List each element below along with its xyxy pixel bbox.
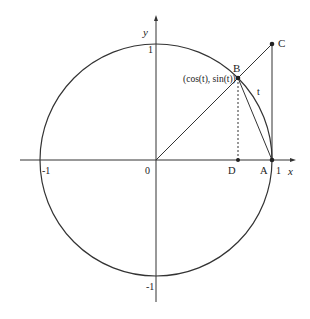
y-axis-arrow-icon	[154, 15, 158, 21]
point-a	[270, 158, 275, 163]
chord-ba	[238, 78, 272, 160]
point-b-coords-label: (cos(t), sin(t))	[183, 74, 236, 85]
arc-t-label: t	[257, 86, 260, 97]
origin-label: 0	[145, 165, 150, 176]
unit-circle-diagram: y 1 -1 0 -1 1 x B (cos(t), sin(t)) C D A…	[0, 0, 310, 319]
y-neg-tick-label: -1	[146, 281, 154, 292]
line-oc	[156, 44, 272, 160]
x-axis-arrow-icon	[290, 158, 296, 162]
y-pos-tick-label: 1	[148, 44, 153, 55]
x-neg-tick-label: -1	[42, 165, 50, 176]
point-c-label: C	[278, 37, 285, 49]
x-pos-tick-label: 1	[276, 165, 281, 176]
point-d-label: D	[228, 165, 236, 176]
point-a-label: A	[260, 165, 268, 176]
point-d	[236, 158, 240, 162]
x-axis-label: x	[287, 165, 293, 177]
point-c	[270, 42, 275, 47]
point-b	[236, 76, 241, 81]
y-axis-label: y	[142, 26, 148, 38]
point-b-label: B	[233, 62, 240, 74]
